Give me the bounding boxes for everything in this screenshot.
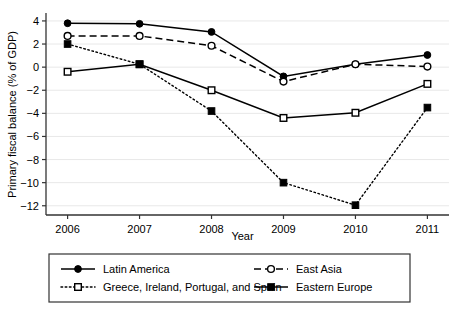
- y-tick-label: −4: [26, 107, 39, 119]
- legend-label: East Asia: [296, 263, 343, 275]
- x-tick-label: 2011: [416, 223, 440, 235]
- data-point-marker: [280, 179, 287, 186]
- x-tick-label: 2008: [199, 223, 223, 235]
- data-point-marker: [136, 61, 143, 68]
- data-point-marker: [424, 81, 431, 88]
- x-tick-label: 2009: [271, 223, 295, 235]
- series-east-asia: [64, 33, 431, 85]
- y-tick-label: −8: [26, 154, 39, 166]
- data-point-marker: [64, 68, 71, 75]
- gridlines: [46, 21, 449, 206]
- y-axis-tick-labels: 420−2−4−6−8−10−12: [20, 15, 39, 212]
- y-tick-label: −2: [26, 84, 39, 96]
- data-point-marker: [64, 41, 71, 48]
- legend-label: Eastern Europe: [296, 281, 372, 293]
- chart-container: 420−2−4−6−8−10−12 2006200720082009201020…: [0, 0, 456, 309]
- x-axis-title: Year: [231, 230, 254, 242]
- data-point-marker: [268, 284, 275, 291]
- data-point-marker: [424, 52, 431, 59]
- data-point-marker: [64, 33, 71, 40]
- y-tick-label: 0: [33, 61, 39, 73]
- data-point-marker: [424, 104, 431, 111]
- primary-fiscal-balance-line-chart: 420−2−4−6−8−10−12 2006200720082009201020…: [0, 0, 456, 309]
- data-point-marker: [280, 78, 287, 85]
- legend-box: [49, 254, 410, 302]
- data-point-marker: [280, 115, 287, 122]
- data-point-marker: [208, 42, 215, 49]
- x-tick-label: 2007: [127, 223, 151, 235]
- data-point-marker: [136, 20, 143, 27]
- legend-label: Latin America: [103, 263, 171, 275]
- data-series-layer: [64, 20, 431, 209]
- x-tick-label: 2010: [343, 223, 367, 235]
- data-point-marker: [352, 202, 359, 209]
- chart-legend: Latin AmericaEast AsiaGreece, Ireland, P…: [49, 254, 410, 302]
- data-point-marker: [64, 20, 71, 27]
- data-point-marker: [208, 29, 215, 36]
- y-tick-label: −12: [20, 200, 39, 212]
- series-greece-ireland-portugal-and-spain: [64, 61, 430, 121]
- data-point-marker: [208, 87, 215, 94]
- y-axis-title: Primary fiscal balance (% of GDP): [6, 31, 18, 198]
- data-point-marker: [75, 284, 82, 291]
- data-point-marker: [352, 109, 359, 116]
- data-point-marker: [136, 33, 143, 40]
- data-point-marker: [268, 266, 275, 273]
- y-tick-label: −10: [20, 177, 39, 189]
- data-point-marker: [208, 108, 215, 115]
- data-point-marker: [352, 61, 359, 68]
- data-point-marker: [75, 266, 82, 273]
- series-latin-america: [64, 20, 431, 80]
- series-line: [68, 64, 428, 118]
- series-line: [68, 23, 428, 76]
- y-tick-label: 4: [33, 15, 39, 27]
- data-point-marker: [424, 63, 431, 70]
- y-tick-label: 2: [33, 38, 39, 50]
- x-tick-label: 2006: [55, 223, 79, 235]
- series-line: [68, 44, 428, 205]
- y-tick-label: −6: [26, 130, 39, 142]
